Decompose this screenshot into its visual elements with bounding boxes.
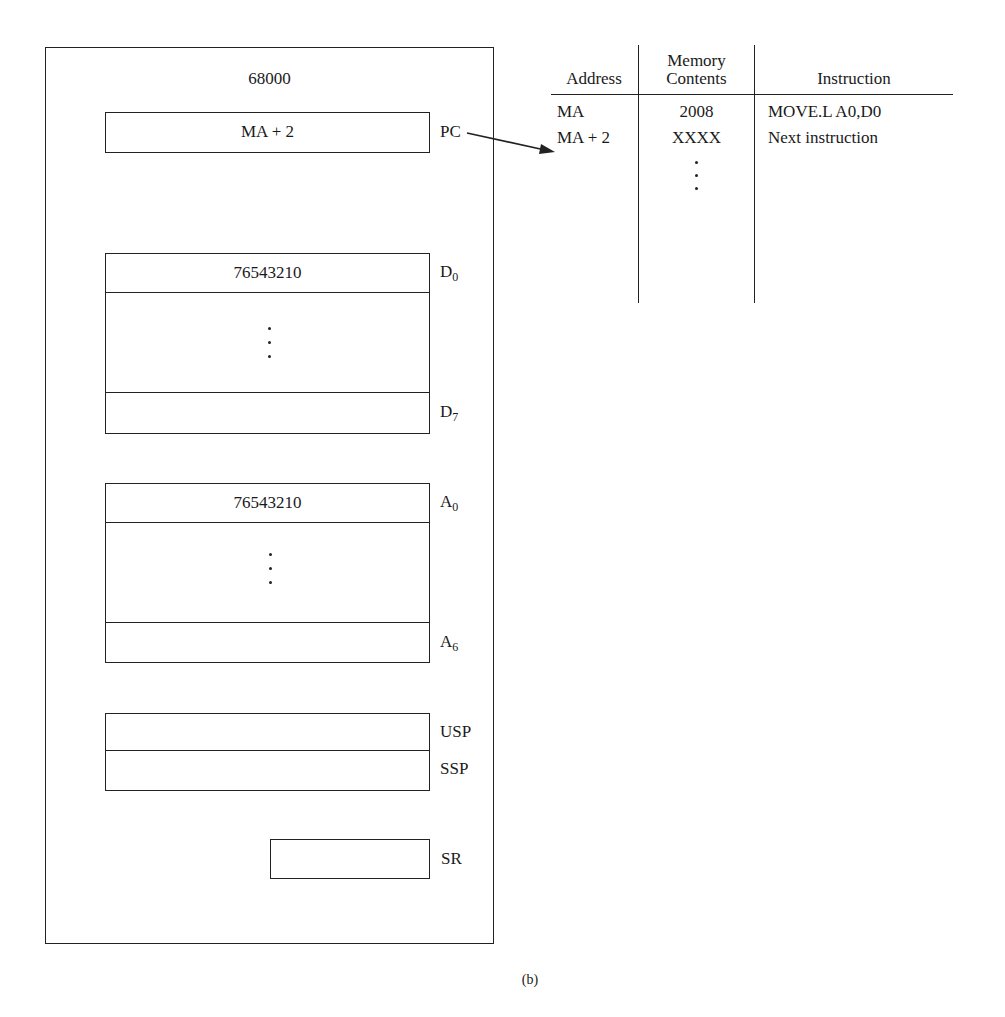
- arrowhead-icon: [539, 144, 555, 154]
- pc-to-memory-arrow: [0, 0, 1005, 1017]
- figure-caption: (b): [480, 970, 580, 990]
- arrow-shaft: [467, 133, 545, 150]
